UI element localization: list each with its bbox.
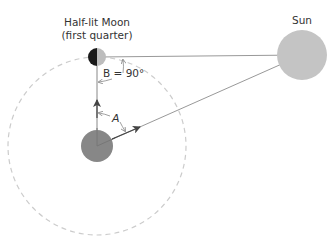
angle-a-arc-right: [120, 122, 125, 131]
moon-lit-half: [97, 48, 106, 66]
moon-phase-diagram: Half-lit Moon (first quarter) Sun B = 90…: [0, 0, 331, 245]
angle-b-label: B = 90°: [103, 67, 144, 79]
sun-label: Sun: [292, 14, 312, 26]
moon-label-line1: Half-lit Moon: [64, 16, 130, 28]
angle-b-arc-left: [99, 79, 112, 82]
angle-a-arc-left: [99, 113, 110, 116]
sun-body: [277, 30, 327, 80]
moon-label-line2: (first quarter): [61, 29, 132, 41]
angle-a-label: A: [111, 112, 120, 125]
moon-sun-line: [97, 55, 302, 57]
moon-dark-half: [88, 48, 97, 66]
half-lit-moon: [88, 48, 106, 66]
earth-to-sun-arrow: [112, 127, 140, 139]
